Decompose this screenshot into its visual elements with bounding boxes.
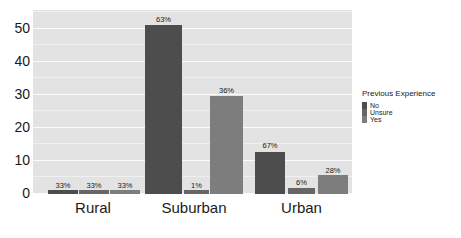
x-tick-suburban: Suburban <box>145 199 243 216</box>
legend-item-unsure[interactable]: Unsure <box>362 109 458 116</box>
bar-suburban-yes <box>210 96 243 194</box>
bar-suburban-unsure <box>184 190 209 194</box>
bar-rural-yes <box>110 190 140 194</box>
bar-rural-unsure <box>79 190 109 194</box>
gridline-y-25 <box>33 110 352 111</box>
x-tick-rural: Rural <box>48 199 138 216</box>
bar-urban-yes <box>318 175 348 194</box>
gridline-y-35 <box>33 77 352 78</box>
gridline-y-55 <box>33 11 352 12</box>
bar-label-suburban-no: 63% <box>145 15 182 24</box>
bar-label-rural-unsure: 33% <box>79 181 109 190</box>
gridline-y-10 <box>33 160 352 161</box>
bar-label-urban-no: 67% <box>255 141 285 150</box>
bar-rural-no <box>48 190 78 194</box>
bar-label-suburban-yes: 36% <box>210 86 243 95</box>
bar-urban-no <box>255 152 285 194</box>
bar-chart: 33% 33% 33% 63% 1% 36% 67% 6% 28% 50 40 … <box>0 0 461 238</box>
y-tick-10: 10 <box>3 153 30 167</box>
legend-item-yes[interactable]: Yes <box>362 116 458 123</box>
bar-label-urban-yes: 28% <box>318 166 348 175</box>
legend-label-yes: Yes <box>370 116 381 123</box>
bar-urban-unsure <box>288 188 315 194</box>
y-tick-20: 20 <box>3 120 30 134</box>
y-tick-0: 0 <box>3 186 30 200</box>
gridline-y-5 <box>33 176 352 177</box>
bar-label-rural-no: 33% <box>48 181 78 190</box>
bar-label-urban-unsure: 6% <box>288 178 315 187</box>
legend-title: Previous Experience <box>362 89 458 99</box>
plot-panel: 33% 33% 33% 63% 1% 36% 67% 6% 28% <box>33 10 352 194</box>
legend-item-no[interactable]: No <box>362 102 458 109</box>
x-tick-urban: Urban <box>255 199 348 216</box>
gridline-y-15 <box>33 143 352 144</box>
y-tick-30: 30 <box>3 87 30 101</box>
y-tick-50: 50 <box>3 21 30 35</box>
bar-suburban-no <box>145 25 182 194</box>
legend-swatch-no-icon <box>362 102 367 109</box>
legend-label-no: No <box>370 102 379 109</box>
legend-label-unsure: Unsure <box>370 109 393 116</box>
gridline-y-20 <box>33 127 352 128</box>
gridline-y-45 <box>33 44 352 45</box>
y-tick-40: 40 <box>3 54 30 68</box>
bar-label-rural-yes: 33% <box>110 181 140 190</box>
y-axis: 50 40 30 20 10 0 <box>0 0 30 238</box>
gridline-y-50 <box>33 28 352 29</box>
legend: Previous Experience No Unsure Yes <box>362 89 458 123</box>
legend-swatch-yes-icon <box>362 116 367 123</box>
legend-swatch-unsure-icon <box>362 109 367 116</box>
gridline-y-40 <box>33 61 352 62</box>
gridline-y-30 <box>33 94 352 95</box>
bar-label-suburban-unsure: 1% <box>184 181 209 190</box>
